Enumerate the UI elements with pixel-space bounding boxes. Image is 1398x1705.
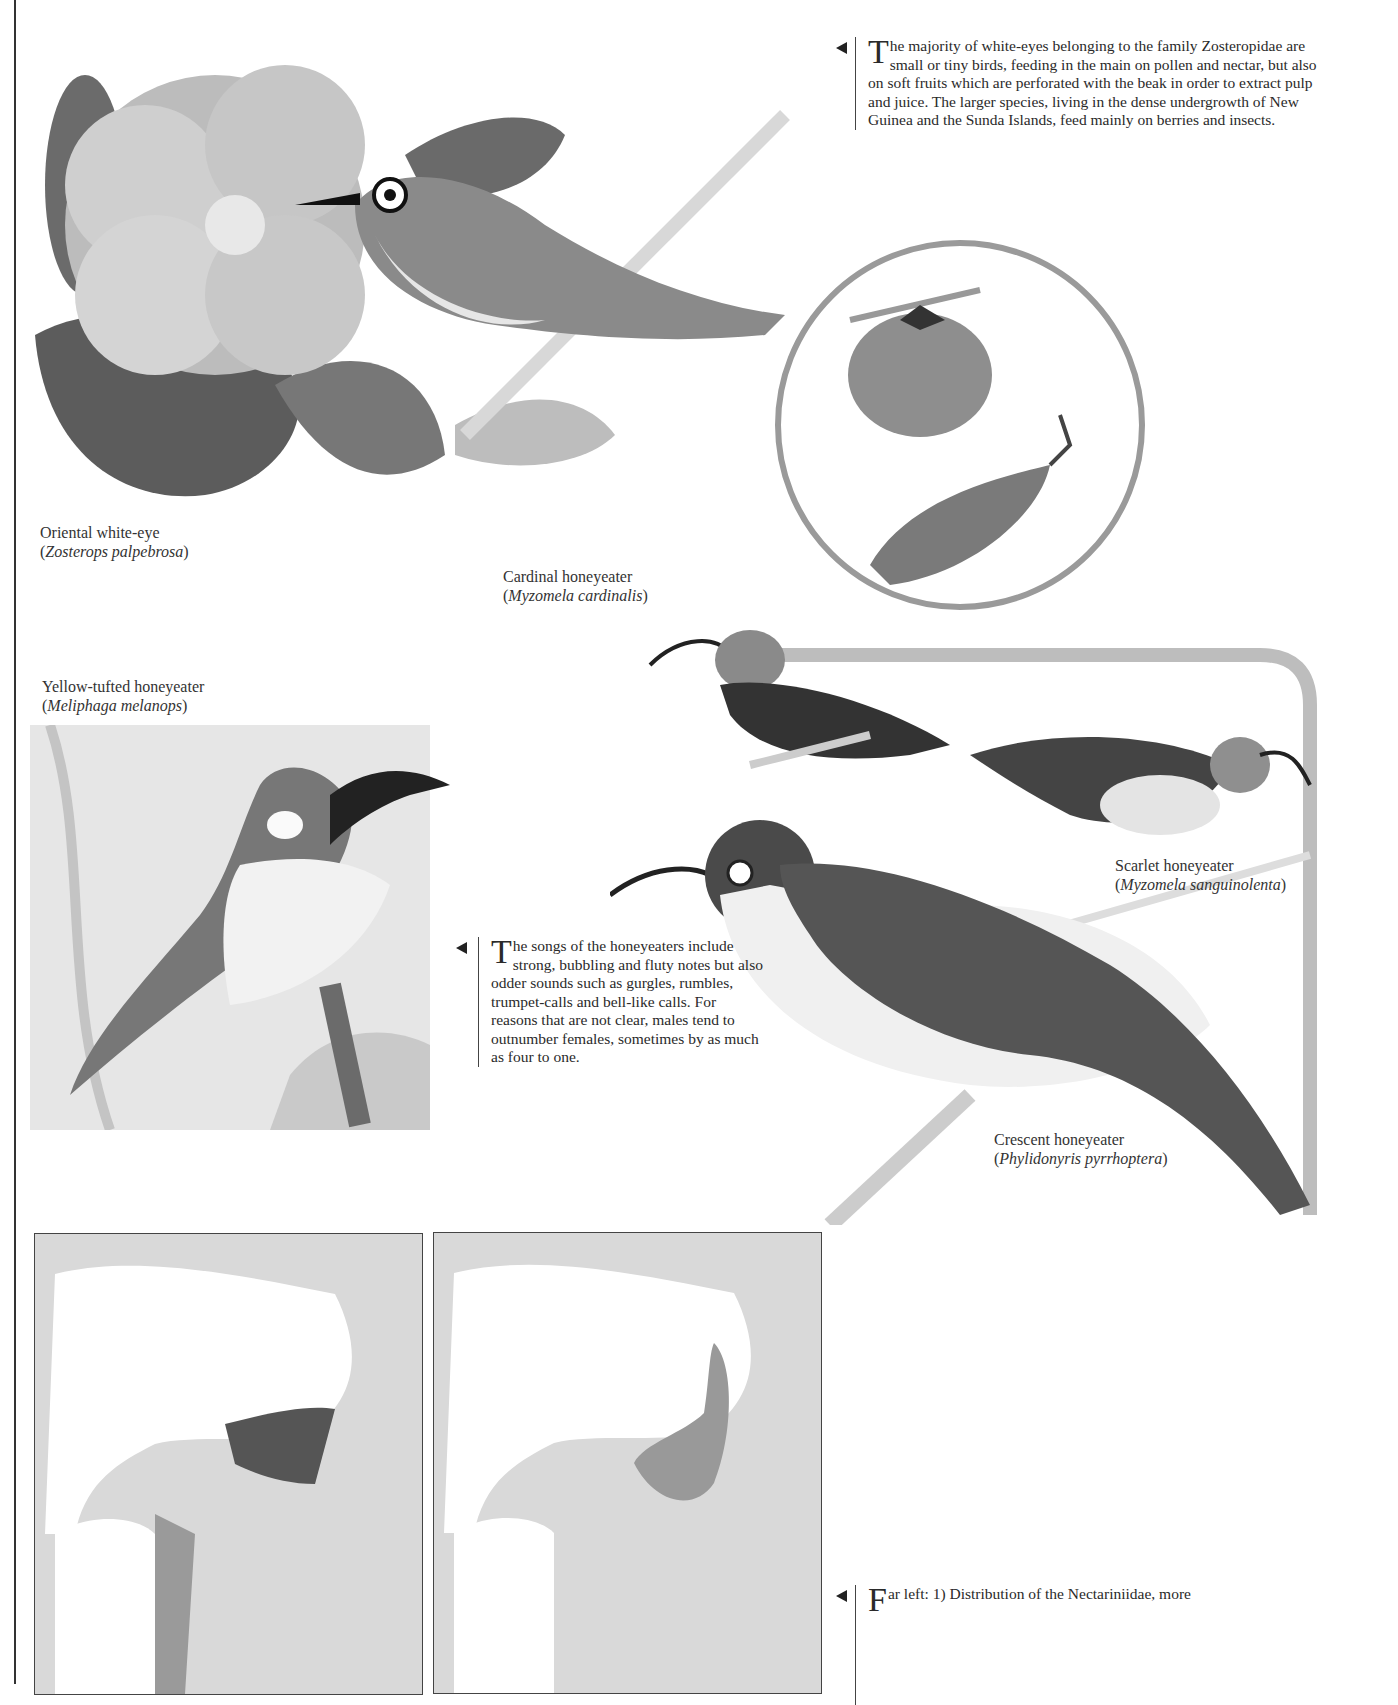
map-nectariniidae-distribution xyxy=(34,1233,423,1695)
intro-body: he majority of white-eyes belonging to t… xyxy=(868,37,1317,128)
pointer-arrow-icon xyxy=(456,942,467,954)
caption-common-name: Cardinal honeyeater xyxy=(503,567,648,586)
drop-cap: T xyxy=(868,39,889,65)
caption-cardinal-honeyeater: Cardinal honeyeater (Myzomela cardinalis… xyxy=(503,567,648,605)
paren-close: ) xyxy=(182,697,187,714)
caption-yellow-tufted-honeyeater: Yellow-tufted honeyeater (Meliphaga mela… xyxy=(42,677,204,715)
white-eye-illustration xyxy=(25,35,845,505)
caption-crescent-honeyeater: Crescent honeyeater (Phylidonyris pyrrho… xyxy=(994,1130,1167,1168)
caption-common-name: Scarlet honeyeater xyxy=(1115,856,1286,875)
caption-latin-name: Myzomela sanguinolenta xyxy=(1120,876,1280,893)
caption-common-name: Crescent honeyeater xyxy=(994,1130,1167,1149)
caption-latin-name: Meliphaga melanops xyxy=(47,697,182,714)
map-honeyeater-distribution xyxy=(433,1232,822,1694)
caption-common-name: Yellow-tufted honeyeater xyxy=(42,677,204,696)
caption-latin-name: Myzomela cardinalis xyxy=(508,587,642,604)
songs-paragraph: The songs of the honeyeaters include str… xyxy=(478,937,766,1067)
maps-paragraph: Far left: 1) Distribution of the Nectari… xyxy=(855,1585,1323,1705)
pointer-arrow-icon xyxy=(836,42,847,54)
paren-close: ) xyxy=(1162,1150,1167,1167)
page-left-rule xyxy=(14,0,16,1684)
caption-scarlet-honeyeater: Scarlet honeyeater (Myzomela sanguinolen… xyxy=(1115,856,1286,894)
paren-close: ) xyxy=(1281,876,1286,893)
caption-oriental-white-eye: Oriental white-eye (Zosterops palpebrosa… xyxy=(40,523,189,561)
fruit-circle-illustration xyxy=(770,235,1150,615)
caption-latin-name: Phylidonyris pyrrhoptera xyxy=(999,1150,1162,1167)
paren-close: ) xyxy=(183,543,188,560)
drop-cap: F xyxy=(868,1587,887,1613)
maps-body: ar left: 1) Distribution of the Nectarin… xyxy=(888,1585,1191,1602)
songs-body: he songs of the honeyeaters include stro… xyxy=(491,937,763,1065)
paren-close: ) xyxy=(642,587,647,604)
yellow-tufted-illustration xyxy=(30,725,510,1130)
intro-paragraph: The majority of white-eyes belonging to … xyxy=(855,37,1323,130)
drop-cap: T xyxy=(491,939,512,965)
caption-common-name: Oriental white-eye xyxy=(40,523,189,542)
caption-latin-name: Zosterops palpebrosa xyxy=(45,543,183,560)
pointer-arrow-icon xyxy=(836,1590,847,1602)
